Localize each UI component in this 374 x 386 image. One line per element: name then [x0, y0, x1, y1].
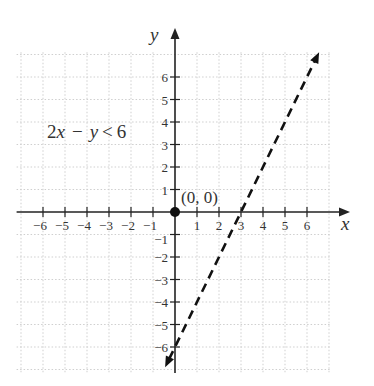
inequality-minus: −	[72, 121, 83, 142]
x-tick-label: −2	[121, 218, 135, 233]
inequality-constant: 6	[117, 121, 127, 142]
inequality-var-x: x	[56, 121, 66, 142]
test-point-marker	[170, 207, 180, 217]
x-tick-label: −5	[55, 218, 69, 233]
x-tick-label: −3	[99, 218, 113, 233]
inequality-label: 2x−y<6	[47, 121, 126, 142]
y-tick-label: −3	[154, 273, 168, 288]
y-tick-label: −5	[154, 318, 168, 333]
test-point-label: (0, 0)	[181, 188, 218, 207]
x-tick-labels: −6−5−4−3−2−1123456	[33, 218, 311, 233]
y-tick-label: 6	[162, 70, 169, 85]
x-tick-label: 4	[260, 218, 267, 233]
x-tick-label: 2	[216, 218, 223, 233]
x-tick-label: 5	[282, 218, 289, 233]
y-tick-label: −1	[154, 232, 168, 247]
x-axis-label: x	[340, 213, 350, 234]
y-tick-label: 1	[162, 183, 169, 198]
x-tick-label: −6	[33, 218, 47, 233]
inequality-var-y: y	[88, 121, 99, 142]
y-tick-label: −4	[154, 295, 168, 310]
y-tick-label: 3	[162, 138, 169, 153]
y-tick-label: −2	[154, 250, 168, 265]
x-tick-label: 6	[304, 218, 311, 233]
y-tick-label: 2	[162, 160, 169, 175]
y-tick-label: −6	[154, 340, 168, 355]
inequality-coef: 2	[47, 121, 57, 142]
x-tick-label: −4	[77, 218, 91, 233]
boundary-dashed-line	[169, 60, 315, 359]
inequality-less-than: <	[102, 121, 113, 142]
x-tick-label: 3	[238, 218, 245, 233]
coordinate-plane: −6−5−4−3−2−1123456 −6−5−4−3−2−1123456 x …	[0, 0, 374, 386]
y-axis-arrow-icon	[171, 28, 180, 39]
x-tick-label: 1	[194, 218, 201, 233]
y-axis-label: y	[148, 24, 159, 45]
y-tick-label: 5	[162, 93, 169, 108]
y-tick-label: 4	[162, 115, 169, 130]
